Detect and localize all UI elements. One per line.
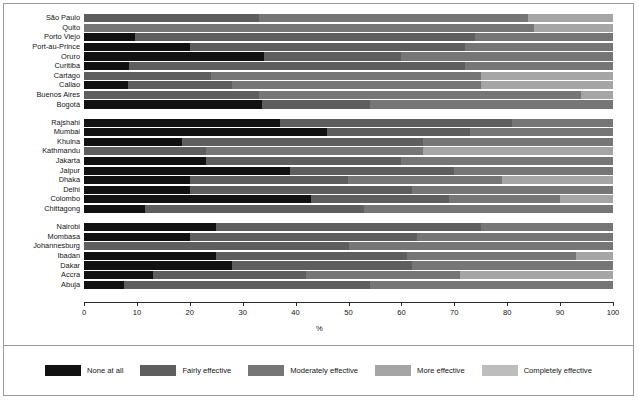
bar-segment [349, 242, 614, 250]
bar-row [84, 186, 613, 194]
bar-segment [262, 100, 370, 108]
bar-segment [145, 205, 365, 213]
bar-segment [84, 81, 128, 89]
legend-label: Moderately effective [290, 366, 358, 375]
category-label: Oruro [0, 53, 80, 61]
x-tick-label: 30 [238, 308, 246, 317]
bar-row [84, 242, 613, 250]
legend-label: Completely effective [524, 366, 592, 375]
bar-segment [306, 271, 459, 279]
bar-row [84, 205, 613, 213]
bar-segment [153, 271, 306, 279]
bar-row [84, 281, 613, 289]
legend-item[interactable]: More effective [375, 365, 465, 376]
category-label: Rajshahi [0, 119, 80, 127]
bar-segment [190, 186, 412, 194]
bar-segment [84, 176, 190, 184]
bar-segment [190, 176, 349, 184]
bar-row [84, 119, 613, 127]
bar-segment [190, 233, 417, 241]
bar-segment [470, 128, 613, 136]
bar-segment [481, 72, 613, 80]
x-axis-title: % [0, 324, 639, 333]
x-tick [84, 302, 85, 306]
legend-label: More effective [417, 366, 465, 375]
bar-segment [84, 147, 206, 155]
category-label: Jaipur [0, 167, 80, 175]
bar-segment [84, 281, 124, 289]
category-label: Delhi [0, 186, 80, 194]
bar-segment [84, 43, 190, 51]
x-tick [137, 302, 138, 306]
bar-segment [84, 233, 190, 241]
category-label: Johannesburg [0, 242, 80, 250]
bar-segment [206, 157, 402, 165]
bar-row [84, 24, 613, 32]
bar-row [84, 147, 613, 155]
category-label: Jakarta [0, 157, 80, 165]
bar-segment [190, 43, 465, 51]
bar-row [84, 52, 613, 60]
legend-item[interactable]: Completely effective [482, 365, 592, 376]
bar-segment [465, 62, 613, 70]
bar-segment [370, 100, 613, 108]
x-tick-label: 0 [82, 308, 86, 317]
legend-label: Fairly effective [182, 366, 231, 375]
bar-segment [423, 147, 613, 155]
x-tick-label: 80 [503, 308, 511, 317]
legend-item[interactable]: Moderately effective [248, 365, 358, 376]
bar-segment [454, 167, 613, 175]
bar-segment [182, 138, 423, 146]
x-tick-label: 40 [291, 308, 299, 317]
legend-swatch [45, 365, 81, 376]
bar-segment [407, 252, 576, 260]
bar-segment [84, 252, 216, 260]
bar-row [84, 261, 613, 269]
legend-label: None at all [87, 366, 123, 375]
bar-segment [84, 223, 216, 231]
bar-segment [211, 72, 481, 80]
bar-segment [460, 271, 613, 279]
bar-segment [232, 261, 412, 269]
category-label: Dhaka [0, 176, 80, 184]
category-label: Porto Viejo [0, 33, 80, 41]
category-label: Kathmandu [0, 147, 80, 155]
bar-segment [84, 119, 280, 127]
x-tick [560, 302, 561, 306]
plot-area [84, 14, 613, 302]
bar-segment [129, 62, 465, 70]
bar-segment [528, 14, 613, 22]
bar-segment [412, 186, 613, 194]
bar-segment [534, 24, 613, 32]
category-label: Cartago [0, 72, 80, 80]
category-label: Accra [0, 271, 80, 279]
x-tick-label: 60 [397, 308, 405, 317]
bar-row [84, 167, 613, 175]
bar-segment [84, 205, 145, 213]
category-label: Mumbai [0, 128, 80, 136]
bar-segment [327, 128, 470, 136]
legend-swatch [140, 365, 176, 376]
bar-segment [481, 81, 613, 89]
legend-item[interactable]: Fairly effective [140, 365, 231, 376]
bar-segment [232, 81, 481, 89]
bar-segment [423, 138, 613, 146]
bar-row [84, 233, 613, 241]
bar-segment [311, 195, 449, 203]
bar-segment [290, 167, 454, 175]
bar-segment [84, 14, 259, 22]
category-label: Dakar [0, 262, 80, 270]
bar-row [84, 157, 613, 165]
bar-segment [216, 223, 481, 231]
category-label: Curitiba [0, 62, 80, 70]
bar-segment [259, 14, 529, 22]
bar-segment [576, 252, 613, 260]
bar-row [84, 176, 613, 184]
bar-segment [370, 281, 613, 289]
x-tick-label: 50 [344, 308, 352, 317]
category-label: São Paulo [0, 14, 80, 22]
bar-segment [84, 91, 259, 99]
bar-segment [502, 176, 613, 184]
bar-segment [412, 261, 613, 269]
legend-item[interactable]: None at all [45, 365, 123, 376]
